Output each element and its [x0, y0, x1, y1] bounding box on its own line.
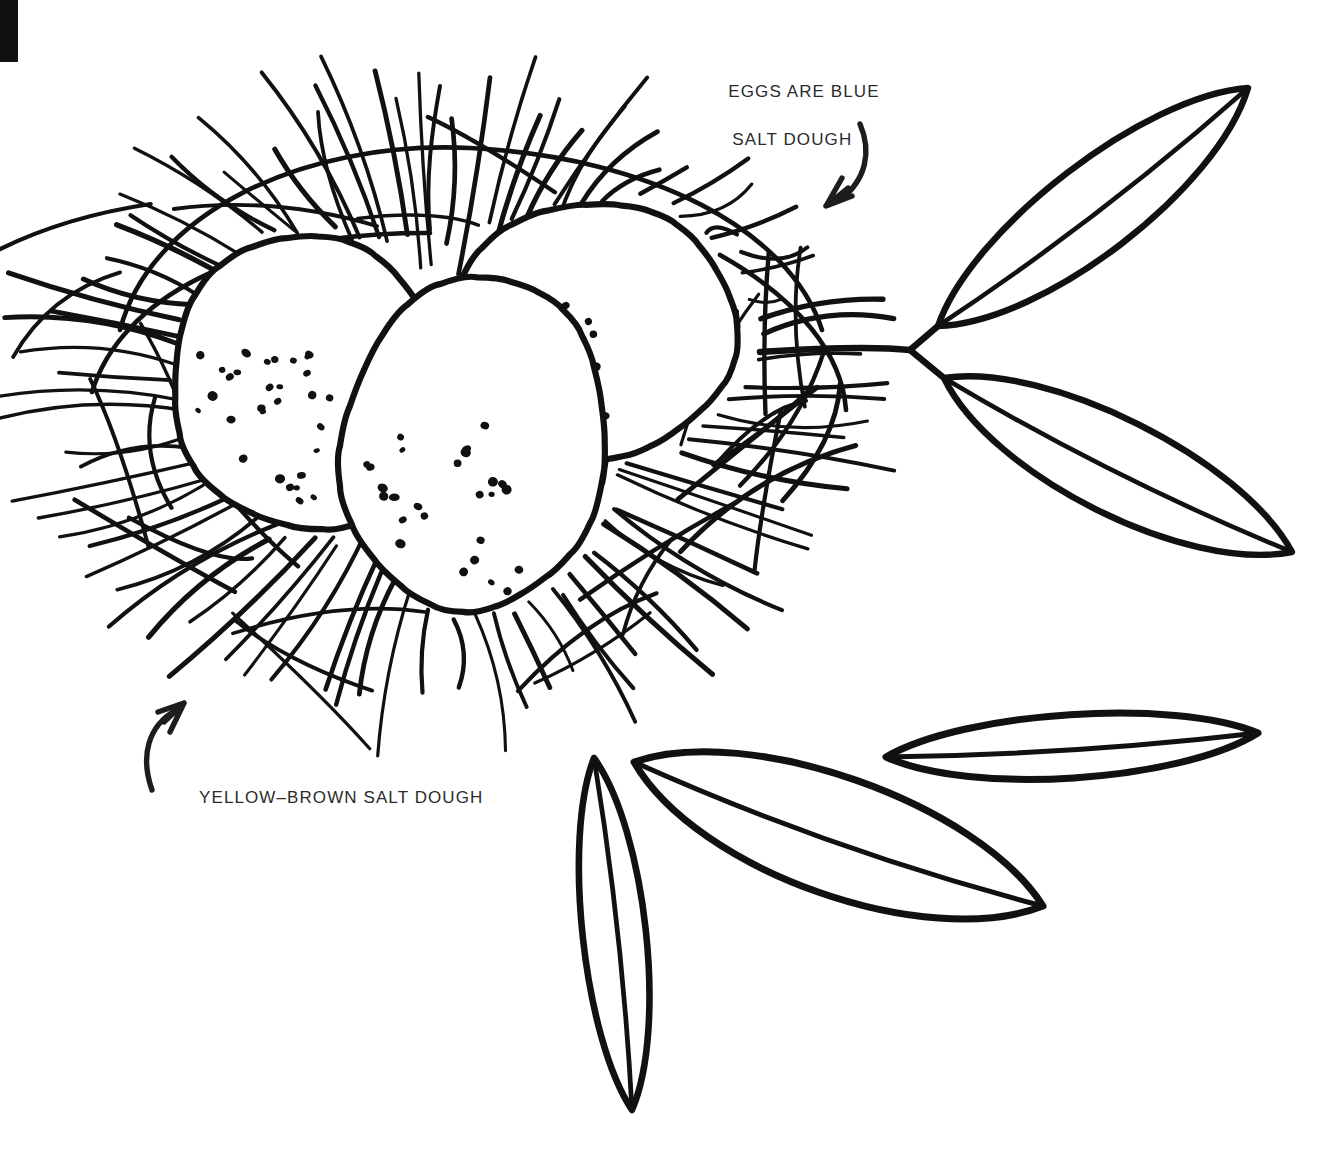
- nest-straw: [172, 157, 275, 230]
- nest-straw: [764, 315, 894, 334]
- branch-stem: [760, 348, 910, 352]
- illustration-page: EGGS ARE BLUE SALT DOUGH YELLOW–BROWN SA…: [0, 0, 1333, 1156]
- nest-straw: [421, 610, 428, 693]
- nest-straw: [428, 86, 440, 230]
- leaf-upper-right: [938, 88, 1248, 326]
- loose-leaves-group: [579, 713, 1258, 1110]
- nest-straw: [326, 556, 379, 689]
- leaf-horizontal-outline: [886, 713, 1258, 779]
- nest-straw: [594, 553, 697, 650]
- leaf-stalk-upper: [910, 326, 938, 350]
- nest-straw: [447, 119, 455, 244]
- nest-straw: [12, 463, 195, 502]
- leaf-stalk-lower: [910, 350, 944, 378]
- nest-straw: [712, 207, 797, 238]
- nest-straw: [59, 373, 170, 380]
- annotation-eggs-line1: EGGS ARE BLUE: [728, 82, 879, 101]
- leaf-lower-right: [944, 376, 1292, 555]
- annotation-eggs-line2: SALT DOUGH: [705, 128, 880, 152]
- annotation-nest-line1: YELLOW–BROWN SALT DOUGH: [199, 788, 483, 807]
- leaf-horizontal: [886, 713, 1258, 779]
- nest-straw: [454, 620, 464, 688]
- nest-straw: [109, 524, 278, 627]
- leaf-vertical: [579, 758, 650, 1110]
- leaf-upper-right-outline: [938, 88, 1248, 326]
- annotation-eggs-label: EGGS ARE BLUE SALT DOUGH: [705, 56, 880, 200]
- leaf-vertical-outline: [579, 758, 650, 1110]
- nest-straw: [617, 475, 808, 549]
- nest-straw: [9, 273, 180, 320]
- nest-straw: [0, 404, 185, 418]
- nest-straw: [555, 78, 648, 205]
- annotation-nest-label: YELLOW–BROWN SALT DOUGH: [176, 762, 483, 834]
- nest-straw: [131, 215, 227, 269]
- nest-straw: [0, 204, 151, 277]
- nest-straw: [378, 590, 410, 756]
- nest-and-leaves-illustration: [0, 0, 1333, 1156]
- nest-straw: [796, 248, 805, 407]
- nest-straw: [359, 579, 395, 694]
- nest-straw: [318, 112, 352, 240]
- nest-straw: [66, 435, 191, 454]
